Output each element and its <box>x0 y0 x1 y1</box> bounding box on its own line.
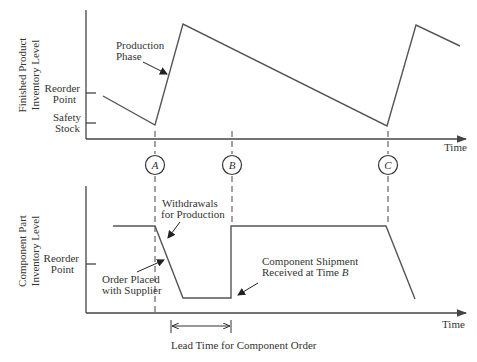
lead-time-label: Lead Time for Component Order <box>171 339 317 351</box>
production-phase-label-2: Phase <box>116 50 142 62</box>
top-time-label: Time <box>444 141 467 153</box>
marker-c-label: C <box>384 159 392 171</box>
withdrawals-label-2: for Production <box>161 208 225 220</box>
shipment-label-2: Received at Time B <box>262 266 349 278</box>
top-y-axis-label-1: Finished Product <box>16 38 28 113</box>
order-placed-label-2: with Supplier <box>102 284 162 296</box>
inventory-diagram: Finished Product Inventory Level Reorder… <box>0 0 477 362</box>
bottom-y-axis-label-1: Component Part <box>16 215 28 287</box>
top-chart: Finished Product Inventory Level Reorder… <box>16 10 467 153</box>
shipment-label-2-prefix: Received at Time <box>262 266 342 278</box>
bottom-y-axis-label-2: Inventory Level <box>29 216 41 287</box>
withdrawals-arrow-icon <box>168 222 180 238</box>
order-placed-arrow-icon <box>137 260 164 272</box>
top-y-axis-label-2: Inventory Level <box>29 40 41 111</box>
time-markers: A B C <box>146 131 398 313</box>
bottom-chart: Component Part Inventory Level Reorder P… <box>16 186 466 351</box>
top-reorder-label-2: Point <box>53 93 76 105</box>
safety-stock-label-2: Stock <box>55 122 81 134</box>
shipment-arrow-icon <box>238 283 258 295</box>
production-phase-arrow-icon <box>143 62 167 74</box>
bottom-time-label: Time <box>442 318 465 330</box>
shipment-label-2-var: B <box>342 266 349 278</box>
marker-a-label: A <box>151 159 159 171</box>
bottom-reorder-label-2: Point <box>51 263 74 275</box>
marker-b-label: B <box>229 159 236 171</box>
